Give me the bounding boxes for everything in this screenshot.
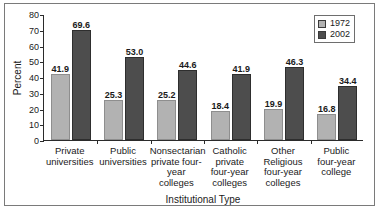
x-axis-category-label-line: year colleges: [150, 167, 203, 188]
y-axis-tick-label: 10: [29, 121, 39, 130]
x-axis-category-label-line: Nonsectarian: [150, 146, 203, 157]
bar-value-label: 34.4: [339, 77, 357, 86]
legend-swatch-icon: [318, 20, 326, 28]
bar-group: 25.353.0: [102, 14, 146, 140]
bar-2002: 53.0: [125, 57, 144, 140]
bar-1972: 16.8: [317, 114, 336, 140]
bar-value-label: 25.3: [105, 91, 123, 100]
y-axis-tick-label: 0: [34, 137, 39, 146]
y-axis-tick: [40, 31, 44, 32]
bar-group: 25.244.6: [155, 14, 199, 140]
chart-legend: 19722002: [314, 15, 355, 43]
y-axis-tick-label: 50: [29, 58, 39, 67]
y-axis-tick: [40, 78, 44, 79]
y-axis-tick: [40, 15, 44, 16]
y-axis-tick-label: 30: [29, 89, 39, 98]
bar-group: 41.969.6: [49, 14, 93, 140]
figure-frame: Percent 0102030405060708041.969.625.353.…: [4, 3, 375, 206]
y-axis-tick-label: 40: [29, 74, 39, 83]
bar-value-label: 69.6: [72, 21, 90, 30]
x-axis-category-label-line: Catholic: [203, 146, 256, 157]
x-axis-category-label-line: universities: [43, 157, 96, 168]
y-axis-title: Percent: [12, 15, 24, 141]
y-axis-tick-label: 20: [29, 105, 39, 114]
chart-screenshot: Percent 0102030405060708041.969.625.353.…: [0, 0, 380, 212]
bar-group: 18.441.9: [209, 14, 253, 140]
legend-item: 2002: [318, 29, 350, 40]
bar-value-label: 18.4: [211, 102, 229, 111]
x-axis-tick: [311, 140, 312, 144]
y-axis-tick: [40, 47, 44, 48]
x-axis-title: Institutional Type: [43, 194, 363, 205]
bar-value-label: 41.9: [51, 65, 69, 74]
bar-1972: 18.4: [211, 111, 230, 140]
bar-value-label: 53.0: [126, 48, 144, 57]
x-axis-tick: [97, 140, 98, 144]
x-axis-category-label-line: Public: [96, 146, 149, 157]
y-axis-tick-label: 80: [29, 11, 39, 20]
x-axis-category-label: Publicuniversities: [96, 146, 149, 167]
legend-label: 2002: [330, 29, 350, 40]
x-axis-category-label-line: Public: [310, 146, 363, 157]
x-axis-category-label: Nonsectarianprivate four-year colleges: [150, 146, 203, 188]
x-axis-tick: [151, 140, 152, 144]
x-axis-category-label-line: Other: [256, 146, 309, 157]
bar-1972: 25.2: [157, 100, 176, 140]
x-axis-category-label-line: colleges: [256, 178, 309, 189]
bar-2002: 69.6: [72, 30, 91, 140]
bar-2002: 44.6: [178, 70, 197, 140]
x-axis-tick: [257, 140, 258, 144]
bar-value-label: 19.9: [265, 100, 283, 109]
legend-label: 1972: [330, 18, 350, 29]
x-axis-category-label-line: four-year: [256, 167, 309, 178]
y-axis-tick: [40, 62, 44, 63]
bar-value-label: 44.6: [179, 61, 197, 70]
y-axis-tick: [40, 141, 44, 142]
x-axis-tick: [204, 140, 205, 144]
y-axis-tick: [40, 94, 44, 95]
x-axis-category-label-line: four-year: [203, 167, 256, 178]
y-axis-tick-label: 60: [29, 42, 39, 51]
x-axis-category-label: Catholicprivatefour-yearcolleges: [203, 146, 256, 188]
bar-value-label: 16.8: [318, 105, 336, 114]
x-axis-category-label-line: Private: [43, 146, 96, 157]
bar-1972: 41.9: [51, 74, 70, 140]
bar-1972: 25.3: [104, 100, 123, 140]
x-axis-category-label-line: college: [310, 167, 363, 178]
bar-1972: 19.9: [264, 109, 283, 140]
legend-item: 1972: [318, 18, 350, 29]
bar-group: 19.946.3: [262, 14, 306, 140]
x-axis-category-label: OtherReligiousfour-yearcolleges: [256, 146, 309, 188]
bar-2002: 46.3: [285, 67, 304, 140]
x-axis-category-label-line: universities: [96, 157, 149, 168]
y-axis-tick-label: 70: [29, 26, 39, 35]
legend-swatch-icon: [318, 31, 326, 39]
bar-value-label: 46.3: [286, 58, 304, 67]
bar-2002: 41.9: [232, 74, 251, 140]
x-axis-category-label-line: colleges: [203, 178, 256, 189]
x-axis-category-label: Privateuniversities: [43, 146, 96, 167]
y-axis-tick: [40, 125, 44, 126]
bar-2002: 34.4: [338, 86, 357, 140]
x-axis-category-label: Publicfour-yearcollege: [310, 146, 363, 178]
bar-value-label: 41.9: [232, 65, 250, 74]
bar-value-label: 25.2: [158, 91, 176, 100]
y-axis-tick: [40, 110, 44, 111]
